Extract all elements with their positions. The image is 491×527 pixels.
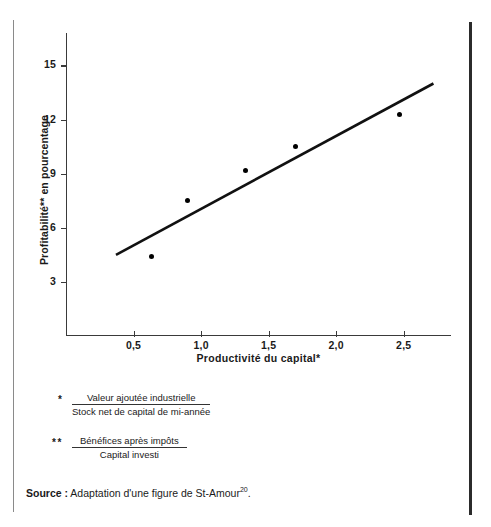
x-axis-tick: 2,5 bbox=[404, 331, 405, 337]
y-axis-tick: 15 bbox=[61, 65, 67, 66]
footnote-1-fraction: Valeur ajoutée industrielle Stock net de… bbox=[72, 392, 210, 417]
footnote-1-mark: * bbox=[58, 394, 63, 405]
y-axis-tick-label: 9 bbox=[50, 167, 56, 179]
y-axis-tick: 3 bbox=[61, 282, 67, 283]
scatter-figure: Profitabilité** en pourcentage 36912150,… bbox=[0, 0, 470, 380]
x-axis-tick: 1,5 bbox=[269, 331, 270, 337]
y-axis-title-text: Profitabilité** en pourcentage bbox=[38, 115, 50, 265]
y-axis-tick-label: 15 bbox=[44, 58, 56, 70]
x-axis-tick-label: 2,5 bbox=[396, 339, 411, 351]
x-axis-tick-label: 1,5 bbox=[261, 339, 276, 351]
y-axis-tick: 9 bbox=[61, 174, 67, 175]
x-axis-title: Productivité du capital* bbox=[66, 352, 451, 364]
source-text: Adaptation d'une figure de St-Amour bbox=[70, 487, 240, 499]
footnote-1: * Valeur ajoutée industrielle Stock net … bbox=[0, 392, 470, 422]
source-label: Source : bbox=[26, 487, 68, 499]
source-period: . bbox=[248, 487, 251, 499]
x-axis-tick: 2,0 bbox=[336, 331, 337, 337]
footnote-2-fraction: Bénéfices après impôts Capital investi bbox=[72, 435, 187, 460]
footnote-2: ** Bénéfices après impôts Capital invest… bbox=[0, 435, 470, 465]
trend-line-segment bbox=[116, 84, 433, 255]
footnote-1-denominator: Stock net de capital de mi-année bbox=[72, 405, 210, 417]
y-axis-tick: 6 bbox=[61, 228, 67, 229]
y-axis-tick-label: 6 bbox=[50, 221, 56, 233]
x-axis-tick-label: 0,5 bbox=[126, 339, 141, 351]
plot-area: 36912150,51,01,52,02,5 bbox=[66, 33, 451, 336]
data-point bbox=[149, 254, 154, 259]
x-axis-tick-label: 2,0 bbox=[329, 339, 344, 351]
data-point bbox=[397, 112, 402, 117]
footnote-1-numerator: Valeur ajoutée industrielle bbox=[72, 392, 210, 405]
source-line: Source : Adaptation d'une figure de St-A… bbox=[26, 486, 251, 499]
y-axis-tick-label: 3 bbox=[50, 275, 56, 287]
y-axis-tick-label: 12 bbox=[44, 113, 56, 125]
footnotes: * Valeur ajoutée industrielle Stock net … bbox=[0, 392, 470, 478]
x-axis-tick: 0,5 bbox=[134, 331, 135, 337]
footnote-2-denominator: Capital investi bbox=[72, 448, 187, 460]
footnote-2-mark: ** bbox=[52, 437, 63, 448]
data-point bbox=[243, 168, 248, 173]
y-axis-tick: 12 bbox=[61, 120, 67, 121]
x-axis-tick-label: 1,0 bbox=[193, 339, 208, 351]
x-axis-tick: 1,0 bbox=[201, 331, 202, 337]
trend-line bbox=[66, 33, 451, 336]
footnote-2-numerator: Bénéfices après impôts bbox=[72, 435, 187, 448]
source-superscript: 20 bbox=[240, 486, 248, 493]
